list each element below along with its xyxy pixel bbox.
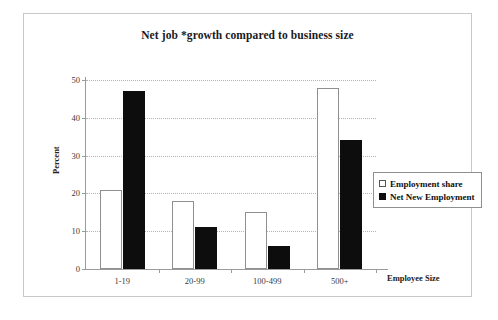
gridline bbox=[86, 80, 376, 81]
x-axis-tick-label: 100-499 bbox=[253, 276, 281, 286]
x-axis-title: Employee Size bbox=[387, 273, 440, 283]
y-axis-tick bbox=[82, 193, 86, 194]
chart-legend: Employment share Net New Employment bbox=[373, 172, 482, 208]
bar-119-series-0 bbox=[100, 190, 122, 269]
hollow-square-icon bbox=[379, 180, 386, 187]
y-axis-tick bbox=[82, 269, 86, 270]
x-axis-tick-label: 20-99 bbox=[185, 276, 205, 286]
x-axis-tick bbox=[376, 269, 377, 273]
bar-119-series-1 bbox=[123, 91, 145, 269]
legend-item-employment-share[interactable]: Employment share bbox=[379, 177, 475, 190]
x-axis-tick bbox=[304, 269, 305, 273]
plot-area: 010203040501-1920-99100-499500+ bbox=[86, 80, 376, 269]
x-axis-tick-label: 500+ bbox=[331, 276, 349, 286]
y-axis-tick bbox=[82, 156, 86, 157]
legend-item-label: Employment share bbox=[390, 179, 463, 189]
legend-item-net-new-employment[interactable]: Net New Employment bbox=[379, 190, 475, 203]
y-axis-tick-label: 0 bbox=[76, 264, 80, 274]
figure-frame: Net job *growth compared to business siz… bbox=[23, 13, 472, 297]
x-axis-tick-label: 1-19 bbox=[114, 276, 130, 286]
chart-title: Net job *growth compared to business siz… bbox=[24, 29, 471, 41]
y-axis-tick-label: 50 bbox=[72, 75, 81, 85]
y-axis-tick-label: 10 bbox=[72, 226, 81, 236]
bar-100499-series-1 bbox=[268, 246, 290, 269]
y-axis-tick bbox=[82, 118, 86, 119]
y-axis-tick bbox=[82, 80, 86, 81]
y-axis-tick-label: 20 bbox=[72, 188, 81, 198]
bar-2099-series-0 bbox=[172, 201, 194, 269]
x-axis-line bbox=[85, 269, 388, 270]
bar-500-series-1 bbox=[340, 140, 362, 269]
bar-100499-series-0 bbox=[245, 212, 267, 269]
legend-item-label: Net New Employment bbox=[390, 192, 475, 202]
x-axis-tick bbox=[159, 269, 160, 273]
bar-500-series-0 bbox=[317, 88, 339, 269]
y-axis-tick bbox=[82, 231, 86, 232]
x-axis-tick bbox=[231, 269, 232, 273]
bar-2099-series-1 bbox=[195, 227, 217, 269]
y-axis-title: Percent bbox=[51, 146, 61, 174]
y-axis-tick-label: 40 bbox=[72, 113, 81, 123]
filled-square-icon bbox=[379, 193, 386, 200]
y-axis-tick-label: 30 bbox=[72, 151, 81, 161]
